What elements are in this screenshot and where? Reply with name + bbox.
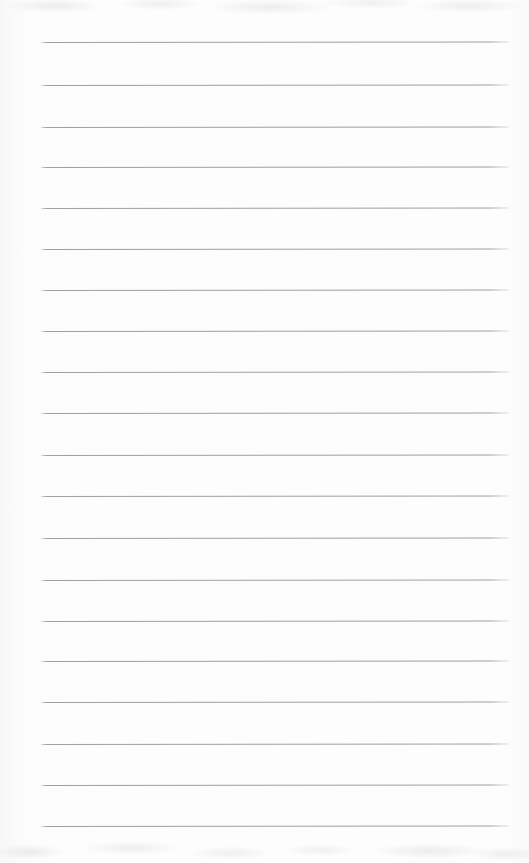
ruled-line (41, 127, 509, 128)
ruled-line (41, 455, 509, 456)
ruled-line (41, 826, 509, 827)
ruled-line (41, 744, 509, 745)
ruled-line (41, 42, 509, 43)
ruled-line (41, 167, 509, 168)
scanned-page (0, 0, 529, 863)
ruled-line (41, 580, 509, 581)
ruled-line (41, 785, 509, 786)
ruled-line (41, 496, 509, 497)
ruled-line (41, 621, 509, 622)
ruled-line (41, 372, 509, 373)
ruled-line (41, 331, 509, 332)
ruled-line (41, 208, 509, 209)
ruled-line (41, 290, 509, 291)
ruled-line (41, 85, 509, 86)
ruled-line (41, 702, 509, 703)
ruled-lines-group (0, 0, 529, 863)
ruled-line (41, 249, 509, 250)
ruled-line (41, 538, 509, 539)
ruled-line (41, 661, 509, 662)
ruled-line (41, 413, 509, 414)
